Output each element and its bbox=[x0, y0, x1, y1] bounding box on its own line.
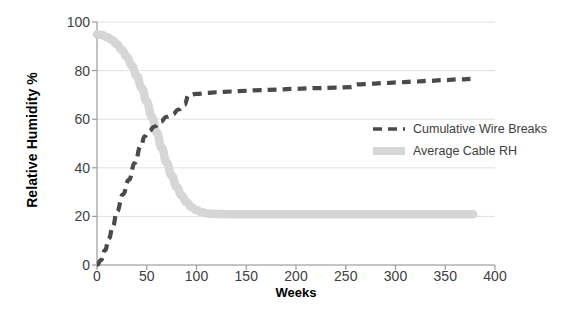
legend-item-average-cable-rh[interactable]: Average Cable RH bbox=[372, 140, 572, 162]
x-tick-400: 400 bbox=[465, 268, 525, 284]
legend-label-cumulative-wire-breaks: Cumulative Wire Breaks bbox=[413, 122, 547, 136]
chart-legend: Cumulative Wire Breaks Average Cable RH bbox=[372, 118, 572, 162]
legend-item-cumulative-wire-breaks[interactable]: Cumulative Wire Breaks bbox=[372, 118, 572, 140]
x-axis-title: Weeks bbox=[97, 285, 495, 300]
chart-container: Relative Humidity % 020406080100 0501001… bbox=[0, 0, 576, 311]
legend-swatch-dashed-dark bbox=[372, 122, 406, 136]
legend-label-average-cable-rh: Average Cable RH bbox=[413, 144, 517, 158]
legend-swatch-band-light bbox=[372, 144, 406, 158]
series-cumulative-wire-breaks bbox=[97, 79, 473, 265]
